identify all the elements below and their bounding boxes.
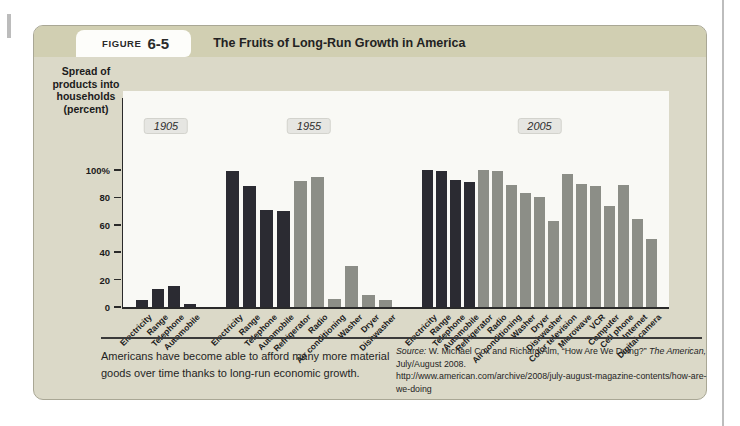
- page-column-rule: [722, 0, 724, 426]
- bar-column: Dryer: [362, 91, 375, 307]
- bar-column: Internet: [632, 91, 643, 307]
- bar-column: Automobile: [277, 91, 290, 307]
- bar-range: [436, 171, 447, 307]
- bar-group-2005: 2005ElectricityRangeTelephoneAutomobileR…: [422, 91, 657, 307]
- source-journal: The American,: [649, 346, 706, 356]
- bar-automobile: [277, 211, 290, 307]
- scan-artifact: [7, 14, 11, 38]
- bar-column: Radio: [311, 91, 324, 307]
- y-tick-label: 20: [99, 274, 110, 285]
- figure-header: FIGURE 6-5 The Fruits of Long-Run Growth…: [34, 26, 706, 57]
- bar-column: Radio: [492, 91, 503, 307]
- bars-row: 1905ElectricityRangeTelephoneAutomobile1…: [123, 91, 669, 307]
- bar-range: [243, 186, 256, 307]
- bar-automobile: [184, 304, 196, 307]
- bar-column: Range: [436, 91, 447, 307]
- bar-column: Range: [243, 91, 256, 307]
- bar-group-1905: 1905ElectricityRangeTelephoneAutomobile: [136, 91, 196, 307]
- bar-electricity: [422, 170, 433, 307]
- bar-column: Washer: [345, 91, 358, 307]
- bar-air-conditioning: [328, 299, 341, 307]
- bar-column: Washer: [520, 91, 531, 307]
- bar-dryer: [534, 197, 545, 307]
- source-text-1: W. Michael Cox and Richard Alm, “How Are…: [426, 346, 649, 356]
- y-tick-mark: [114, 306, 121, 308]
- bar-telephone: [168, 286, 180, 307]
- bar-column: Refrigerator: [478, 91, 489, 307]
- bar-vcr: [590, 186, 601, 307]
- bar-color-television: [562, 174, 573, 307]
- bar-column: Digital camera: [646, 91, 657, 307]
- source-note: Source: W. Michael Cox and Richard Alm, …: [396, 345, 708, 395]
- bar-column: Telephone: [450, 91, 461, 307]
- figure-number: 6-5: [148, 35, 170, 52]
- bar-dishwasher: [548, 221, 559, 307]
- x-axis-line: [122, 307, 670, 309]
- y-tick-mark: [114, 251, 121, 253]
- bar-computer: [604, 206, 615, 307]
- bar-air-conditioning: [506, 185, 517, 307]
- figure-number-tab: FIGURE 6-5: [76, 30, 191, 57]
- bar-column: Refrigerator: [294, 91, 307, 307]
- bar-column: Microwave: [576, 91, 587, 307]
- caption-divider: [101, 337, 702, 339]
- bar-telephone: [450, 180, 461, 307]
- bar-column: VCR: [590, 91, 601, 307]
- bar-column: Dryer: [534, 91, 545, 307]
- bar-cell-phone: [618, 185, 629, 307]
- y-tick-label: 100%: [86, 165, 110, 176]
- figure-title: The Fruits of Long-Run Growth in America: [213, 36, 465, 50]
- bar-microwave: [576, 184, 587, 307]
- bar-column: Electricity: [226, 91, 239, 307]
- bar-column: Electricity: [422, 91, 433, 307]
- bar-digital-camera: [646, 239, 657, 308]
- y-tick-mark: [114, 169, 121, 171]
- figure-box: FIGURE 6-5 The Fruits of Long-Run Growth…: [33, 25, 707, 400]
- bar-refrigerator: [294, 181, 307, 307]
- bar-electricity: [226, 171, 239, 307]
- y-tick-label: 80: [99, 192, 110, 203]
- y-tick-label: 60: [99, 219, 110, 230]
- bar-group-1955: 1955ElectricityRangeTelephoneAutomobileR…: [226, 91, 392, 307]
- bar-radio: [492, 171, 503, 307]
- y-axis-title: Spread of products into households (perc…: [46, 65, 126, 115]
- y-tick-mark: [114, 279, 121, 281]
- source-prefix: Source:: [396, 346, 426, 356]
- bar-column: Cell phone: [618, 91, 629, 307]
- bar-column: Computer: [604, 91, 615, 307]
- bar-column: Electricity: [136, 91, 148, 307]
- figure-label: FIGURE: [102, 38, 142, 49]
- source-url: http://www.american.com/archive/2008/jul…: [396, 370, 708, 395]
- bar-dryer: [362, 295, 375, 307]
- bar-radio: [311, 177, 324, 307]
- bar-telephone: [260, 210, 273, 307]
- bar-column: Color television: [562, 91, 573, 307]
- bar-range: [152, 289, 164, 307]
- bar-column: Telephone: [168, 91, 180, 307]
- y-tick-mark: [114, 224, 121, 226]
- bar-column: Air conditioning: [506, 91, 517, 307]
- chart-plot-area: 1905ElectricityRangeTelephoneAutomobile1…: [123, 91, 669, 307]
- source-text-2: July/August 2008.: [396, 359, 466, 369]
- bar-column: Automobile: [184, 91, 196, 307]
- bar-column: Dishwasher: [548, 91, 559, 307]
- bar-column: Air conditioning: [328, 91, 341, 307]
- bar-washer: [520, 193, 531, 307]
- figure-body: Spread of products into households (perc…: [34, 57, 706, 400]
- bar-column: Range: [152, 91, 164, 307]
- bar-automobile: [464, 182, 475, 307]
- bar-column: Telephone: [260, 91, 273, 307]
- y-tick-label: 0: [105, 302, 110, 313]
- bar-column: Automobile: [464, 91, 475, 307]
- bar-column: Dishwasher: [379, 91, 392, 307]
- bar-dishwasher: [379, 300, 392, 307]
- bar-electricity: [136, 300, 148, 307]
- bar-internet: [632, 219, 643, 307]
- y-tick-label: 40: [99, 247, 110, 258]
- bar-refrigerator: [478, 170, 489, 307]
- y-tick-mark: [114, 197, 121, 199]
- bar-washer: [345, 266, 358, 307]
- year-label-1905: 1905: [144, 118, 188, 134]
- figure-caption: Americans have become able to afford man…: [101, 348, 401, 381]
